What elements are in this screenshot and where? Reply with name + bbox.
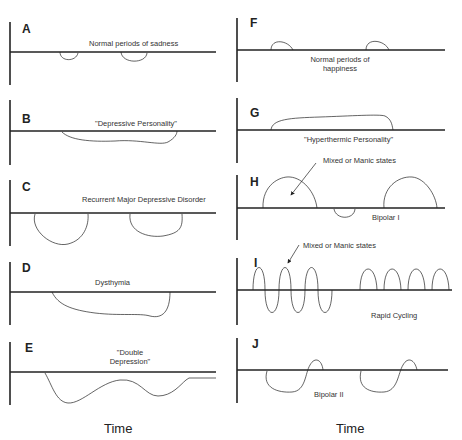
panel-i-arrow	[288, 245, 299, 263]
panel-j-letter: J	[252, 337, 259, 351]
panel-i-axes	[237, 258, 452, 325]
panel-b-label: "Depressive Personality"	[95, 119, 177, 128]
panel-d-curve	[52, 292, 170, 317]
panel-f-label-line1: Normal periods of	[305, 55, 375, 64]
panel-g-letter: G	[250, 106, 259, 120]
panel-e-label-line2: Depression"	[100, 357, 160, 366]
panel-a-label: Normal periods of sadness	[89, 39, 178, 48]
panel-b-curve	[62, 131, 177, 143]
panel-h-arrow	[291, 163, 316, 195]
panel-a-letter: A	[22, 22, 31, 36]
panel-f-letter: F	[250, 16, 257, 30]
panel-b-axes	[10, 100, 216, 165]
panel-d-label: Dysthymia	[95, 278, 130, 287]
panel-f-label: Normal periods of happiness	[305, 55, 375, 73]
panel-j-curve	[266, 360, 323, 392]
panel-a-curve	[60, 52, 78, 60]
panel-g-curve	[271, 115, 393, 130]
panel-g-axes	[237, 98, 445, 163]
panel-e-label-line1: "Double	[100, 348, 160, 357]
panel-e-label: "Double Depression"	[100, 348, 160, 366]
panel-c-label: Recurrent Major Depressive Disorder	[82, 195, 206, 204]
panel-f-curve	[271, 42, 293, 50]
panel-i-annotation: Mixed or Manic states	[303, 241, 376, 250]
panel-i-label: Rapid Cycling	[371, 311, 417, 320]
panel-e-letter: E	[25, 341, 33, 355]
panel-e-curve	[45, 373, 216, 403]
panel-i-letter: I	[254, 256, 257, 270]
panel-c-letter: C	[22, 180, 31, 194]
panel-b-letter: B	[22, 112, 31, 126]
panel-h-label: Bipolar I	[372, 213, 400, 222]
panel-d-axes	[10, 262, 216, 325]
x-axis-label-left: Time	[104, 421, 132, 436]
x-axis-label-right: Time	[336, 421, 364, 436]
panel-h-curve	[263, 177, 317, 208]
panel-h-letter: H	[250, 175, 259, 189]
panel-g-label: "Hyperthermic Personality"	[304, 135, 393, 144]
panel-c-curve	[34, 214, 88, 245]
panel-h-axes	[237, 175, 445, 240]
panel-j-label: Bipolar II	[314, 390, 344, 399]
panel-c-axes	[10, 180, 216, 246]
panel-f-label-line2: happiness	[305, 64, 375, 73]
panel-d-letter: D	[22, 261, 31, 275]
panel-h-annotation: Mixed or Manic states	[323, 156, 396, 165]
panel-a-axes	[10, 22, 216, 85]
